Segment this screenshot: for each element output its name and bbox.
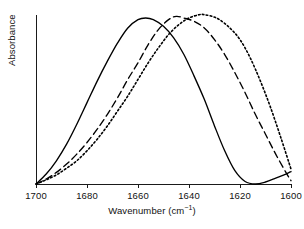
- x-tick-label-1660: 1660: [127, 190, 149, 201]
- curve-dashed: [36, 16, 291, 184]
- x-tick-label-1680: 1680: [76, 190, 98, 201]
- x-axis-ticks: [36, 184, 291, 188]
- curve-solid: [36, 18, 291, 184]
- x-axis-title: Wavenumber (cm−1): [0, 205, 304, 216]
- x-axis-title-tail: ): [192, 205, 195, 216]
- curve-dotted: [36, 14, 291, 184]
- y-axis-title: Absorbance: [6, 14, 17, 66]
- figure-container: 170016801660164016201600 Wavenumber (cm−…: [0, 0, 304, 229]
- x-tick-label-1600: 1600: [280, 190, 302, 201]
- x-tick-label-1700: 1700: [25, 190, 47, 201]
- x-tick-label-1620: 1620: [229, 190, 251, 201]
- x-axis-title-base: Wavenumber (cm: [108, 205, 184, 216]
- x-tick-label-1640: 1640: [178, 190, 200, 201]
- data-curves: [36, 14, 291, 184]
